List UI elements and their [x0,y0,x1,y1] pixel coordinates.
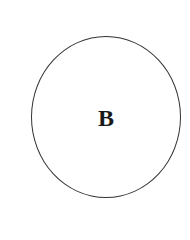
circle-label: B [86,104,126,132]
